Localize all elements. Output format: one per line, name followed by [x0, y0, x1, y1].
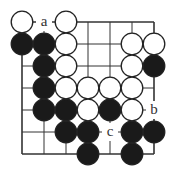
black-stone [99, 99, 121, 121]
white-stone [55, 11, 77, 33]
black-stone [55, 99, 77, 121]
white-stone [121, 99, 143, 121]
black-stone [11, 33, 33, 55]
black-stone [77, 143, 99, 165]
black-stone [143, 55, 165, 77]
go-board-diagram: abc [0, 0, 175, 172]
white-stone [121, 77, 143, 99]
point-label-a: a [41, 13, 48, 29]
white-stone [11, 11, 33, 33]
white-stone [77, 77, 99, 99]
black-stone [33, 99, 55, 121]
black-stone [55, 121, 77, 143]
point-label-b: b [150, 101, 158, 117]
white-stone [77, 99, 99, 121]
white-stone [143, 33, 165, 55]
point-label-c: c [107, 123, 114, 139]
white-stone [55, 33, 77, 55]
black-stone [121, 143, 143, 165]
black-stone [143, 121, 165, 143]
white-stone [55, 55, 77, 77]
labels-layer: abc [36, 13, 162, 141]
black-stone [77, 121, 99, 143]
white-stone [121, 55, 143, 77]
white-stone [55, 77, 77, 99]
black-stone [33, 77, 55, 99]
black-stone [33, 55, 55, 77]
white-stone [121, 33, 143, 55]
black-stone [33, 33, 55, 55]
white-stone [99, 77, 121, 99]
black-stone [121, 121, 143, 143]
